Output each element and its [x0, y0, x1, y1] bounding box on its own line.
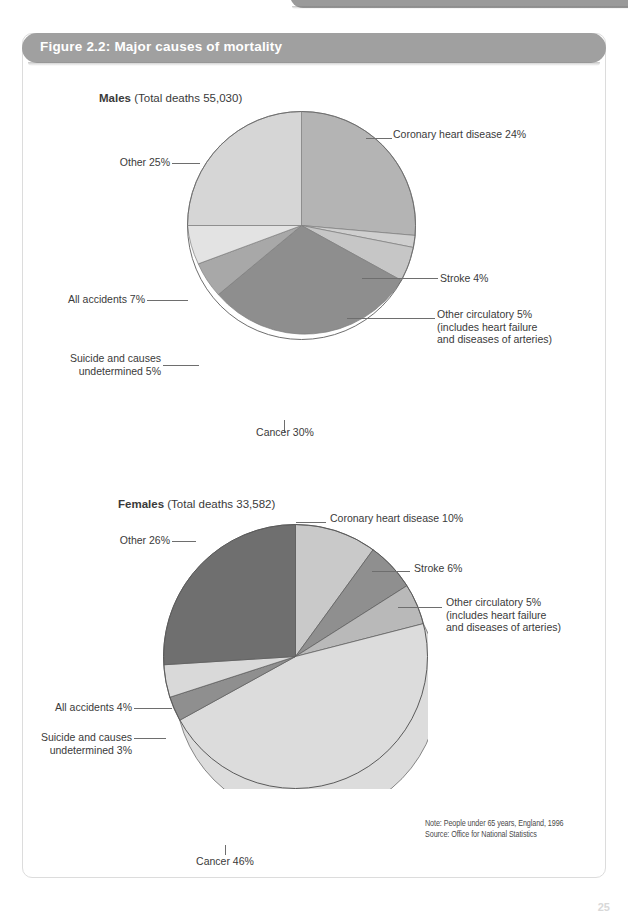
females-label-chd: Coronary heart disease 10%	[330, 512, 463, 525]
females-leader-other	[172, 541, 196, 542]
females-leader-accidents	[134, 708, 172, 709]
females-heading-strong: Females	[118, 498, 164, 510]
females-chart-heading: Females (Total deaths 33,582)	[118, 498, 275, 510]
page-number: 25	[598, 901, 610, 913]
females-label-stroke: Stroke 6%	[414, 562, 462, 575]
females-label-other: Other 26%	[60, 534, 170, 547]
figure-source: Source: Office for National Statistics	[425, 829, 564, 840]
females-pie-chart	[163, 524, 428, 789]
females-label-suicide: Suicide and causes undetermined 3%	[10, 731, 132, 756]
females-slice-other	[164, 525, 296, 665]
females-leader-suicide	[134, 738, 166, 739]
females-leader-chd	[296, 522, 326, 523]
figure-note-block: Note: People under 65 years, England, 19…	[425, 818, 564, 840]
females-label-other-circulatory: Other circulatory 5% (includes heart fai…	[446, 596, 561, 634]
females-label-cancer: Cancer 46%	[170, 855, 280, 868]
females-label-accidents: All accidents 4%	[10, 701, 132, 714]
females-leader-cancer	[225, 845, 226, 855]
females-leader-other-circulatory	[398, 607, 442, 608]
females-heading-rest: (Total deaths 33,582)	[164, 498, 275, 510]
females-pie-svg	[163, 524, 428, 789]
females-chart-block: Females (Total deaths 33,582) Coronar	[0, 0, 628, 915]
females-leader-stroke	[372, 571, 410, 572]
figure-note: Note: People under 65 years, England, 19…	[425, 818, 564, 829]
